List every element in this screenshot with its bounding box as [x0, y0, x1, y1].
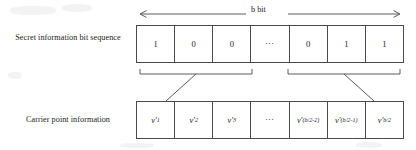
left-group-connector: [166, 74, 196, 101]
carrier-cell: v′1: [137, 102, 175, 138]
secret-sequence-row-label: Secret information bit sequence: [6, 32, 130, 43]
bit-cell: 0: [213, 26, 251, 62]
bit-cell: 1: [366, 26, 403, 62]
scan-speckle: [120, 143, 154, 148]
bit-cell: 1: [328, 26, 366, 62]
scan-speckle: [8, 72, 22, 79]
left-group-bracket: [140, 69, 252, 74]
carrier-point-row: v′1 v′2 v′3 ⋯ v′(b/2-2) v′(b/2-1) v′b/2: [136, 101, 404, 139]
b-bit-measure-arrow: [140, 11, 400, 18]
bit-ellipsis-cell: ⋯: [251, 26, 289, 62]
carrier-ellipsis-cell: ⋯: [251, 102, 289, 138]
carrier-symbol-subscript: 2: [195, 117, 198, 123]
right-group-connector: [344, 74, 374, 101]
right-group-bracket: [288, 69, 400, 74]
carrier-cell: v′3: [213, 102, 251, 138]
carrier-cell: v′(b/2-1): [328, 102, 366, 138]
scan-speckle: [356, 142, 382, 148]
carrier-symbol-subscript: (b/2-2): [302, 117, 319, 123]
carrier-cell: v′b/2: [366, 102, 403, 138]
b-bit-span-label: b bit: [248, 5, 269, 15]
secret-bit-row: 1 0 0 ⋯ 0 1 1: [136, 25, 404, 63]
scan-speckle: [62, 4, 92, 12]
carrier-symbol-subscript: 3: [233, 117, 236, 123]
bit-cell: 1: [137, 26, 175, 62]
carrier-cell: v′2: [175, 102, 213, 138]
bit-cell: 0: [175, 26, 213, 62]
carrier-cell: v′(b/2-2): [290, 102, 328, 138]
carrier-information-row-label: Carrier point information: [6, 114, 130, 125]
scan-speckle: [10, 6, 56, 15]
carrier-symbol-subscript: (b/2-1): [341, 117, 358, 123]
carrier-symbol-subscript: b/2: [383, 117, 391, 123]
bit-cell: 0: [290, 26, 328, 62]
bit-mapping-diagram: Secret information bit sequence Carrier …: [0, 0, 416, 150]
carrier-symbol-subscript: 1: [157, 117, 160, 123]
